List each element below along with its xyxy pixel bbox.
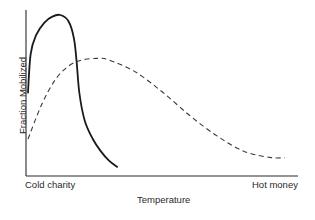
- x-tick-left-label: Cold charity: [25, 179, 75, 190]
- dashed-curve: [28, 58, 285, 158]
- x-tick-right-label: Hot money: [252, 179, 298, 190]
- y-axis-label: Fraction Mobilized: [17, 46, 28, 146]
- solid-curve: [28, 15, 117, 167]
- x-axis-label: Temperature: [137, 194, 190, 205]
